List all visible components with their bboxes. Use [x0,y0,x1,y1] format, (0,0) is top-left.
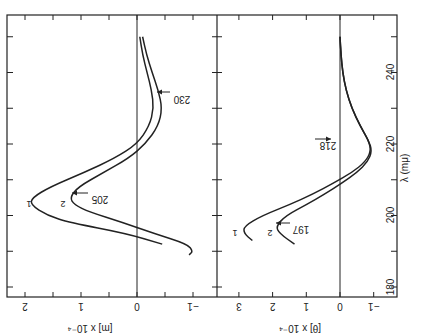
axes-frames: −1012−10123 [7,15,397,312]
x-tick-label-180: 180 [385,278,396,295]
annotation-218: 218 [319,140,336,151]
annotation-230: 230 [173,94,190,105]
y-tick-label: 1 [303,301,309,312]
y-tick-label: −1 [368,301,380,312]
chart-canvas: −1012−10123 180 200 220 240 λ (mμ) [m] x… [0,0,423,336]
x-tick-label-200: 200 [385,206,396,223]
bottom-panel-ylabel: [θ] x 10⁻⁴ [279,323,321,334]
top-panel-ylabel: [m] x 10⁻⁴ [68,323,113,334]
annotation-205: 205 [91,194,108,205]
text-layer: 180 200 220 240 λ (mμ) [m] x 10⁻⁴ [θ] x … [26,63,410,334]
panel1-curve-2 [71,37,192,255]
y-tick-label: 0 [337,301,343,312]
panel1-curve-1 [31,37,162,244]
x-tick-label-220: 220 [385,135,396,152]
ord-cd-figure: −1012−10123 180 200 220 240 λ (mμ) [m] x… [0,0,423,336]
panel2-curve-1 [244,37,370,241]
y-tick-label: 1 [78,301,84,312]
y-tick-label: 2 [22,301,28,312]
y-tick-label: 0 [134,301,140,312]
x-axis-title: λ (mμ) [399,154,410,183]
x-tick-label-240: 240 [385,63,396,80]
top-curve-2-label: 2 [60,199,65,209]
y-tick-label: −1 [187,301,199,312]
y-tick-label: 3 [236,301,242,312]
top-curve-1-label: 1 [26,199,31,209]
y-tick-label: 2 [269,301,275,312]
annotation-197: 197 [292,224,309,235]
bottom-curve-1-label: 1 [232,228,237,238]
outer-frame [7,15,397,297]
bottom-curve-2-label: 2 [267,228,272,238]
